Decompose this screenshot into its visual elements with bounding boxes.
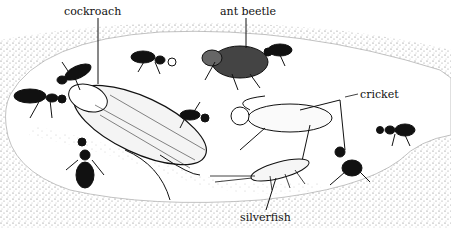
label-cricket: cricket bbox=[360, 89, 399, 100]
ant-nest-illustration: cockroach ant beetle cricket silverfish bbox=[0, 0, 451, 228]
label-ant-beetle: ant beetle bbox=[220, 6, 276, 17]
label-cockroach: cockroach bbox=[64, 6, 121, 17]
label-silverfish: silverfish bbox=[240, 212, 291, 223]
illustration-drawing bbox=[0, 0, 451, 228]
